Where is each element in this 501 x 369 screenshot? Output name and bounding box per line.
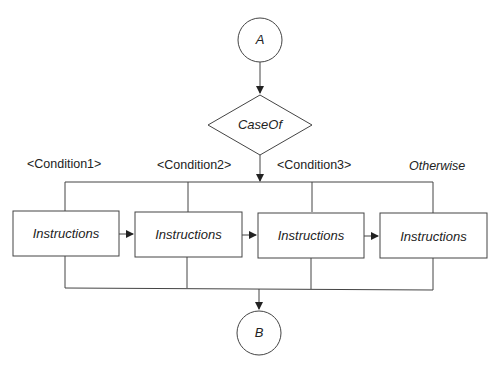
bottom-merge-bus xyxy=(65,288,433,290)
start-node-label: A xyxy=(240,32,280,47)
flowchart-canvas xyxy=(0,0,501,369)
end-node-label: B xyxy=(239,325,279,340)
condition-1-label: <Condition1> xyxy=(27,157,101,171)
decision-label: CaseOf xyxy=(220,117,300,132)
instructions-label-3: Instructions xyxy=(258,228,364,243)
instructions-label-2: Instructions xyxy=(135,227,242,242)
otherwise-label: Otherwise xyxy=(409,159,465,173)
instructions-label-1: Instructions xyxy=(13,226,119,241)
condition-3-label: <Condition3> xyxy=(277,158,351,172)
instructions-label-4: Instructions xyxy=(380,229,487,244)
condition-2-label: <Condition2> xyxy=(157,158,231,172)
